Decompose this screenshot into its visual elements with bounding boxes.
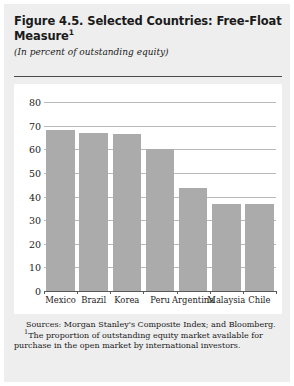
- bar-malaysia: [212, 204, 241, 291]
- y-axis-tick-label: 0: [17, 286, 41, 297]
- x-axis-tick: [44, 291, 45, 294]
- bar-brazil: [79, 133, 108, 291]
- plot-area: 01020304050607080 MexicoBrazilKoreaPeruA…: [14, 84, 282, 314]
- figure-notes: Sources: Morgan Stanley's Composite Inde…: [14, 320, 282, 352]
- bar-slot: [113, 84, 142, 291]
- bar-slot: [179, 84, 208, 291]
- bar-argentina: [179, 188, 208, 291]
- bar-slot: [146, 84, 175, 291]
- y-axis-labels: 01020304050607080: [14, 84, 41, 314]
- x-axis-label-korea: Korea: [114, 295, 139, 305]
- footnote-text: 1The proportion of outstanding equity ma…: [14, 331, 282, 352]
- figure-title-footnote-marker: 1: [69, 28, 74, 37]
- x-axis-tick: [177, 291, 178, 294]
- bar-mexico: [46, 130, 75, 291]
- bar-slot: [212, 84, 241, 291]
- figure-subtitle: (In percent of outstanding equity): [14, 47, 282, 58]
- x-axis-tick: [77, 291, 78, 294]
- y-axis-tick-label: 50: [17, 167, 41, 178]
- x-axis-tick: [143, 291, 144, 294]
- x-axis-label-chile: Chile: [248, 295, 270, 305]
- bar-korea: [113, 134, 142, 291]
- title-divider: [14, 76, 282, 77]
- y-axis-tick-label: 60: [17, 144, 41, 155]
- bars-layer: [44, 84, 276, 291]
- y-axis-tick-label: 80: [17, 97, 41, 108]
- y-axis-tick-label: 30: [17, 215, 41, 226]
- y-axis-tick-label: 40: [17, 191, 41, 202]
- x-axis-line: [44, 291, 276, 292]
- x-axis-labels: MexicoBrazilKoreaPeruArgentinaMalaysiaCh…: [44, 295, 276, 311]
- bar-chile: [245, 204, 274, 291]
- y-axis-tick-label: 70: [17, 120, 41, 131]
- x-axis-label-malaysia: Malaysia: [207, 295, 245, 305]
- bar-slot: [245, 84, 274, 291]
- x-axis-tick: [276, 291, 277, 294]
- x-axis-label-peru: Peru: [150, 295, 170, 305]
- x-axis-tick: [243, 291, 244, 294]
- bar-slot: [46, 84, 75, 291]
- figure-panel: Figure 4.5. Selected Countries: Free-Flo…: [4, 4, 290, 382]
- footnote-body: The proportion of outstanding equity mar…: [14, 331, 263, 351]
- figure-header: Figure 4.5. Selected Countries: Free-Flo…: [14, 14, 282, 58]
- x-axis-label-brazil: Brazil: [81, 295, 106, 305]
- x-axis-tick: [210, 291, 211, 294]
- bar-slot: [79, 84, 108, 291]
- sources-text: Sources: Morgan Stanley's Composite Inde…: [14, 320, 282, 331]
- x-axis-label-mexico: Mexico: [45, 295, 76, 305]
- y-axis-tick-label: 20: [17, 238, 41, 249]
- bar-peru: [146, 149, 175, 291]
- x-axis-tick: [110, 291, 111, 294]
- figure-title-text: Figure 4.5. Selected Countries: Free-Flo…: [14, 14, 282, 43]
- y-axis-tick-label: 10: [17, 262, 41, 273]
- chart-panel: 01020304050607080 MexicoBrazilKoreaPeruA…: [14, 84, 282, 314]
- figure-title: Figure 4.5. Selected Countries: Free-Flo…: [14, 14, 282, 44]
